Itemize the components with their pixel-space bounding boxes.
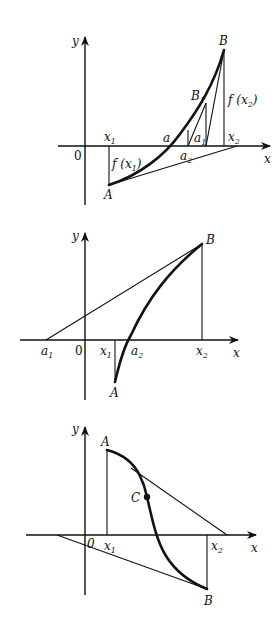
a1-label: a1 xyxy=(194,131,206,147)
f-x2-label: f (x2) xyxy=(227,93,258,109)
point-A-label: A xyxy=(103,188,113,202)
point-A-label: A xyxy=(100,435,110,449)
root-a-label: a xyxy=(163,131,170,145)
y-axis-label: y xyxy=(71,34,79,48)
function-curve xyxy=(115,244,202,382)
x-axis-label: x xyxy=(264,152,271,166)
y-axis-label: y xyxy=(71,229,79,243)
chord-line-B xyxy=(206,50,224,146)
x-axis-label: x xyxy=(233,346,240,360)
origin-label: 0 xyxy=(87,537,95,551)
tangent-line-A xyxy=(131,468,227,535)
origin-label: 0 xyxy=(75,344,83,358)
x-axis-label: x xyxy=(251,541,258,555)
a2-label: a2 xyxy=(180,149,192,165)
point-B-label: B xyxy=(203,594,213,608)
a2-label: a2 xyxy=(131,344,143,360)
x1-label: x1 xyxy=(100,344,112,360)
figure-2: y x 0 a1 x1 a2 x2 B A xyxy=(20,229,240,400)
figure-3: y x 0 x1 x2 A B C xyxy=(26,422,258,608)
tangent-line-B xyxy=(46,244,202,340)
point-B1-label: B1 xyxy=(190,89,205,105)
origin-label: 0 xyxy=(74,149,82,163)
x2-label: x2 xyxy=(228,130,240,146)
x2-label: x2 xyxy=(196,344,208,360)
figure-1: y x 0 x1 x2 a a1 a2 B B1 A f (x1) f (x2) xyxy=(58,34,271,205)
point-A-label: A xyxy=(109,386,119,400)
point-B-label: B xyxy=(218,34,228,48)
inflection-point-C xyxy=(144,494,150,500)
diagram-canvas: y x 0 x1 x2 a a1 a2 B B1 A f (x1) f (x2)… xyxy=(0,0,278,626)
x2-label: x2 xyxy=(211,539,223,555)
tangent-line-B xyxy=(57,535,207,589)
point-B-label: B xyxy=(205,233,215,247)
x1-label: x1 xyxy=(104,539,116,555)
a1-label: a1 xyxy=(41,344,53,360)
f-x1-label: f (x1) xyxy=(111,157,142,173)
point-C-label: C xyxy=(131,491,140,505)
x1-label: x1 xyxy=(104,130,116,146)
y-axis-label: y xyxy=(71,422,79,436)
function-curve xyxy=(107,450,207,589)
